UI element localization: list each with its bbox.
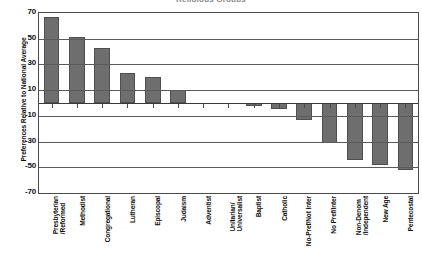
y-tick-label: 70: [28, 7, 37, 16]
x-tick-label: New Age: [382, 196, 389, 223]
x-tick-label: Presbyterian /Reformed: [53, 196, 66, 234]
x-tick-label: No Pref/Inter: [331, 196, 338, 234]
x-tick-label: No-Pref/Not Inter: [306, 196, 313, 246]
gridline: [39, 116, 418, 117]
gridline: [39, 142, 418, 143]
x-tick-label: Non-Denom /Independent: [356, 196, 369, 235]
bar[interactable]: [347, 103, 363, 160]
x-tick-label: Lutheran: [129, 196, 136, 223]
x-tick-label: Congregational: [104, 196, 111, 242]
zero-axis-line: [39, 103, 418, 104]
bar[interactable]: [398, 103, 414, 170]
bar[interactable]: [94, 48, 110, 103]
y-tick-label: -70: [25, 187, 36, 196]
bar[interactable]: [170, 90, 186, 103]
gridline: [39, 64, 418, 65]
x-tick-label: Judaism: [180, 196, 187, 222]
gridline: [39, 167, 418, 168]
x-tick-label: Catholic: [281, 196, 288, 221]
plot-area: [38, 12, 419, 194]
x-axis-tick-labels: Presbyterian /ReformedMethodistCongregat…: [38, 196, 419, 272]
bar[interactable]: [322, 103, 338, 143]
y-tick-label: 50: [28, 32, 37, 41]
y-tick-label: -30: [25, 135, 36, 144]
x-tick-label: Adventist: [205, 196, 212, 225]
y-axis-tick-labels: 70503010-10-30-50-70: [14, 10, 36, 196]
y-tick-label: 30: [28, 58, 37, 67]
gridline: [39, 90, 418, 91]
bar[interactable]: [372, 103, 388, 165]
bar[interactable]: [69, 37, 85, 103]
x-tick-label: Pentecostal: [407, 196, 414, 231]
x-tick-label: Unitarian/ Universalist: [230, 196, 243, 232]
y-tick-label: 10: [28, 84, 37, 93]
bar[interactable]: [120, 73, 136, 103]
y-tick-label: -10: [25, 109, 36, 118]
x-tick-label: Baptist: [255, 196, 262, 217]
gridline: [39, 39, 418, 40]
y-tick-label: -50: [25, 161, 36, 170]
x-tick-label: Episcopal: [154, 196, 161, 226]
x-tick-label: Methodist: [79, 196, 86, 226]
chart-title: Religious Groups: [0, 0, 422, 2]
chart-figure: Religious Groups Preferences Relative to…: [0, 0, 422, 272]
